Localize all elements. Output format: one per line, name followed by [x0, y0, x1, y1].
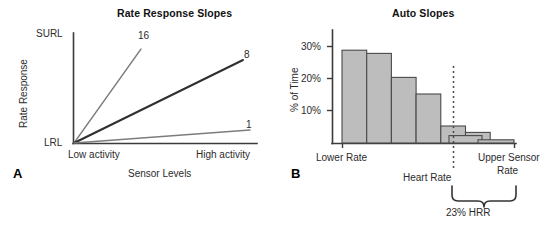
bar-2	[367, 53, 392, 143]
bar-4	[416, 94, 441, 143]
panel-b-bars	[342, 50, 514, 143]
figure-root: Rate Response Slopes Rate Response SURL …	[0, 0, 557, 227]
panel-b-plot-svg	[0, 0, 557, 227]
hrr-brace	[452, 186, 516, 207]
bar-8	[478, 140, 514, 143]
bar-3	[391, 77, 416, 143]
bar-1	[342, 50, 367, 143]
